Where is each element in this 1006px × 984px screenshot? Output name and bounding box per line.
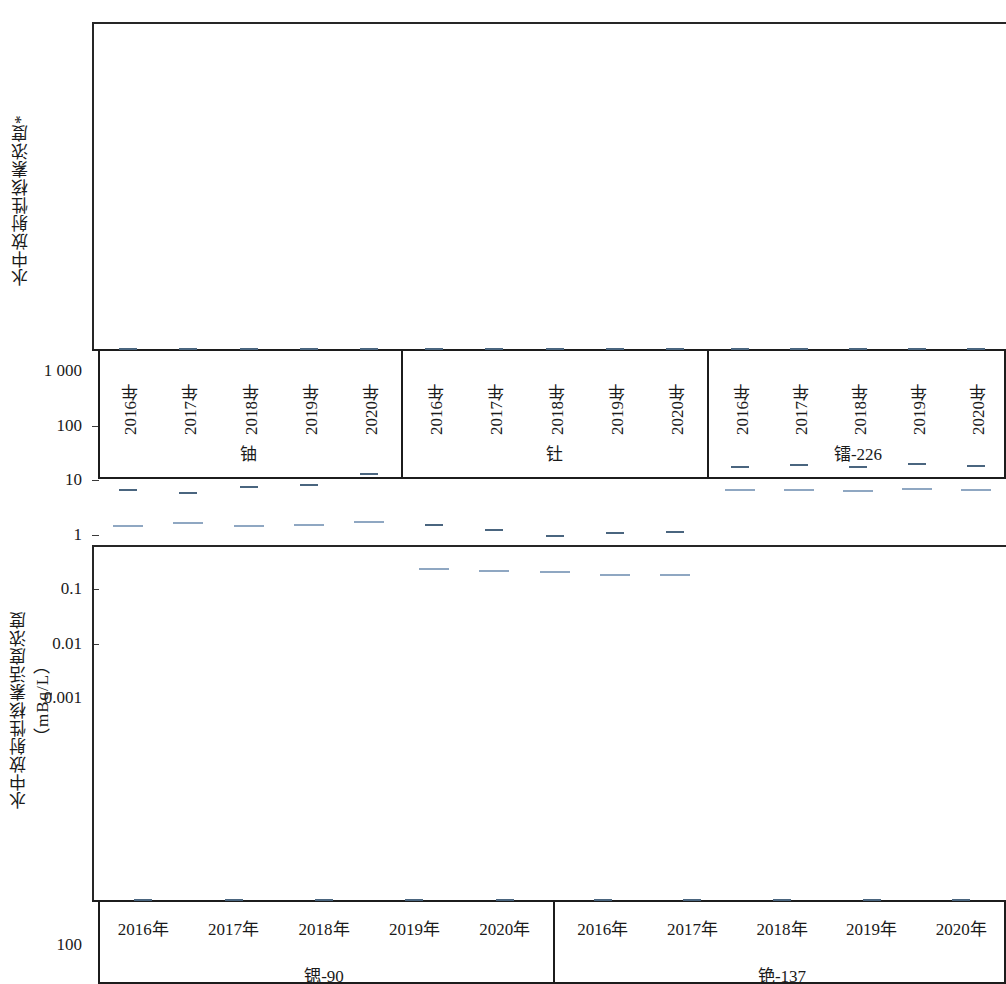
bar bbox=[843, 490, 873, 492]
y-tick-mark bbox=[92, 480, 99, 481]
error-bar-cap-upper bbox=[179, 492, 197, 494]
chart-top-y-axis-label: 水中放射性核素浓度* bbox=[8, 70, 33, 330]
chart-bottom-plot-area bbox=[92, 545, 1006, 900]
figure-page: 水中放射性核素浓度* 1 0001001010.10.010.001 2016年… bbox=[0, 0, 1006, 984]
chart-bottom: 水中放射性核素活度浓度 （mBq/L） 1001010.10.01 2016年2… bbox=[0, 500, 1006, 984]
y-tick-label: 100 bbox=[57, 416, 83, 436]
chart-top-plot-area bbox=[92, 22, 1006, 349]
error-bar-cap-upper bbox=[240, 486, 258, 488]
y-tick-label: 1 000 bbox=[44, 361, 82, 381]
y-tick-label: 10 bbox=[65, 470, 82, 490]
chart-bottom-y-axis-label-line2: （mBq/L） bbox=[30, 630, 55, 770]
bar bbox=[784, 489, 814, 491]
y-tick-label: 100 bbox=[57, 935, 83, 955]
chart-top: 水中放射性核素浓度* 1 0001001010.10.010.001 2016年… bbox=[0, 0, 1006, 500]
error-bar-cap-upper bbox=[300, 484, 318, 486]
group-label-band-bottom-chart bbox=[98, 900, 1004, 984]
bar bbox=[725, 489, 755, 491]
error-bar-cap-upper bbox=[119, 489, 137, 491]
bar bbox=[961, 489, 991, 491]
group-label-band-top-chart bbox=[98, 349, 1004, 479]
bar bbox=[902, 488, 932, 490]
chart-bottom-y-axis-label-line1: 水中放射性核素活度浓度 bbox=[6, 560, 31, 860]
